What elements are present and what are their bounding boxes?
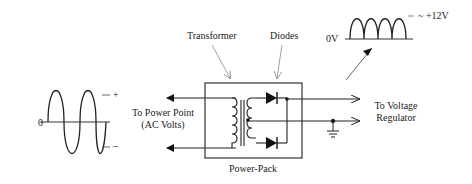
transformer-pointer xyxy=(212,45,230,78)
ground-symbol xyxy=(327,119,339,137)
to-power-point-label: To Power Point (AC Volts) xyxy=(118,107,208,131)
transformer xyxy=(232,98,256,148)
diodes-pointer xyxy=(277,45,282,78)
power-pack-label: Power-Pack xyxy=(229,163,277,175)
output-lines xyxy=(246,97,360,143)
power-pack-diagram: 0 + – To Power Point (AC Volts) Transfor… xyxy=(0,0,472,184)
to-power-point-line2: (AC Volts) xyxy=(118,119,208,131)
ac-sine-wave xyxy=(40,91,110,154)
output-pointer-head xyxy=(363,48,372,56)
to-power-point-line1: To Power Point xyxy=(118,107,208,119)
to-regulator-line1: To Voltage xyxy=(366,100,426,112)
rectified-wave xyxy=(345,16,414,39)
to-voltage-regulator-label: To Voltage Regulator xyxy=(366,100,426,124)
ac-plus-label: + xyxy=(113,89,119,101)
diodes-label: Diodes xyxy=(270,30,298,42)
diode-top xyxy=(256,92,287,104)
dc-zero-label: 0V xyxy=(326,33,338,45)
to-regulator-line2: Regulator xyxy=(366,112,426,124)
circuit-svg xyxy=(0,0,472,184)
ac-minus-label: – xyxy=(113,140,118,152)
dc-peak-label: ~ +12V xyxy=(418,10,449,22)
diode-bottom xyxy=(256,137,287,149)
transformer-label: Transformer xyxy=(187,30,237,42)
ac-zero-label: 0 xyxy=(38,117,43,129)
